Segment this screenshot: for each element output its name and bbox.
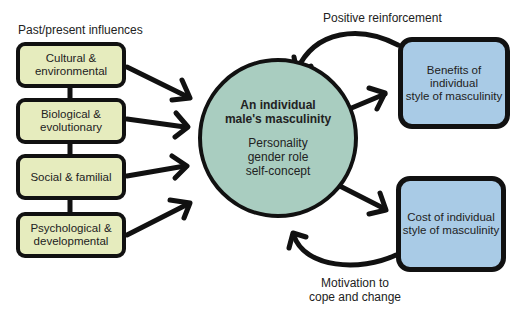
arrow-icon [127, 67, 190, 100]
center-attributes: Personality gender role self-concept [246, 136, 311, 178]
attribute-self-concept: self-concept [246, 164, 311, 178]
masculinity-circle: An individual male's masculinity Persona… [198, 58, 358, 218]
arrow-icon [127, 156, 187, 178]
attribute-gender-role: gender role [246, 150, 311, 164]
center-title-line: An individual [225, 98, 331, 112]
center-title-line: male's masculinity [225, 112, 331, 126]
center-title: An individual male's masculinity [225, 98, 331, 126]
positive-reinforcement-label: Positive reinforcement [323, 11, 442, 25]
influences-heading: Past/present influences [18, 23, 143, 37]
influence-box-social: Social & familial [16, 154, 126, 200]
cost-label: Cost of individual [403, 211, 500, 224]
motivation-label-line: Motivation to [300, 276, 410, 290]
cost-label: style of masculinity [403, 224, 500, 237]
motivation-label-line: cope and change [300, 290, 410, 304]
attribute-personality: Personality [246, 136, 311, 150]
influence-box-biological: Biological & evolutionary [16, 98, 126, 144]
influence-label: evolutionary [40, 121, 102, 134]
curved-arrow-icon [289, 233, 396, 265]
influence-label: developmental [30, 235, 111, 248]
influence-label: Social & familial [30, 171, 111, 184]
motivation-label: Motivation to cope and change [300, 276, 410, 304]
arrow-icon [127, 200, 190, 235]
influence-label: environmental [35, 65, 107, 78]
influence-label: Biological & [40, 108, 102, 121]
influence-label: Cultural & [35, 52, 107, 65]
benefits-box: Benefits of individual style of masculin… [398, 37, 510, 129]
arrow-icon [127, 113, 188, 137]
influence-label: Psychological & [30, 222, 111, 235]
influence-box-psychological: Psychological & developmental [16, 212, 126, 258]
benefits-label: Benefits of individual [403, 64, 505, 90]
benefits-label: style of masculinity [403, 90, 505, 103]
influence-box-cultural: Cultural & environmental [16, 42, 126, 88]
cost-box: Cost of individual style of masculinity [396, 176, 506, 272]
